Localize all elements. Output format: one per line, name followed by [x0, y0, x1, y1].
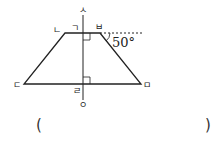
label-top-right: ㅂ [95, 23, 103, 32]
label-top-foot: ㄱ [71, 24, 79, 33]
trapezoid-diagram [0, 0, 220, 158]
answer-close-paren: ) [205, 118, 211, 133]
label-bottom-right: ㅁ [143, 81, 151, 90]
answer-open-paren: ( [36, 118, 42, 133]
angle-label: 50° [112, 36, 135, 49]
label-bottom-foot: ㄹ [73, 87, 81, 96]
right-angle-mark-bottom [83, 77, 90, 84]
angle-arc [106, 33, 110, 41]
label-top-left: ㄴ [53, 26, 61, 35]
right-angle-mark-top [83, 33, 90, 40]
label-bottom-axis: ㅇ [79, 101, 87, 110]
label-top-axis: ㅅ [79, 6, 87, 15]
label-bottom-left: ㄷ [13, 81, 21, 90]
